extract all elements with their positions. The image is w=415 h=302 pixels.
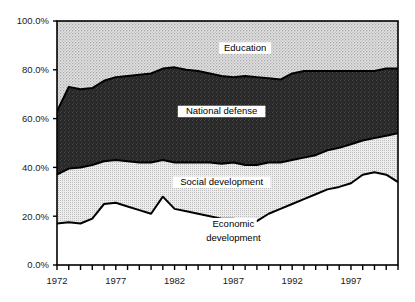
annotation-label-development: development: [206, 232, 261, 243]
y-axis: 0.0%20.0%40.0%60.0%80.0%100.0%: [17, 15, 57, 270]
x-axis: 197219771982198719921997: [46, 265, 398, 286]
x-tick-label: 1992: [282, 275, 303, 286]
y-tick-label: 20.0%: [22, 211, 49, 222]
y-tick-label: 0.0%: [27, 259, 49, 270]
y-tick-label: 60.0%: [22, 113, 49, 124]
x-tick-label: 1997: [340, 275, 361, 286]
x-tick-label: 1987: [223, 275, 244, 286]
annotation-label-national-defense: National defense: [186, 105, 257, 116]
x-tick-label: 1972: [46, 275, 67, 286]
y-tick-label: 80.0%: [22, 64, 49, 75]
stacked-area-chart: 0.0%20.0%40.0%60.0%80.0%100.0% 197219771…: [0, 0, 415, 302]
x-tick-label: 1982: [164, 275, 185, 286]
annotation-label-education: Education: [224, 42, 266, 53]
y-tick-label: 40.0%: [22, 162, 49, 173]
chart-container: 0.0%20.0%40.0%60.0%80.0%100.0% 197219771…: [0, 0, 415, 302]
annotation-label-social-development: Social development: [180, 176, 263, 187]
y-tick-label: 100.0%: [17, 15, 50, 26]
annotation-label-economic: Economic: [213, 218, 255, 229]
x-tick-label: 1977: [105, 275, 126, 286]
